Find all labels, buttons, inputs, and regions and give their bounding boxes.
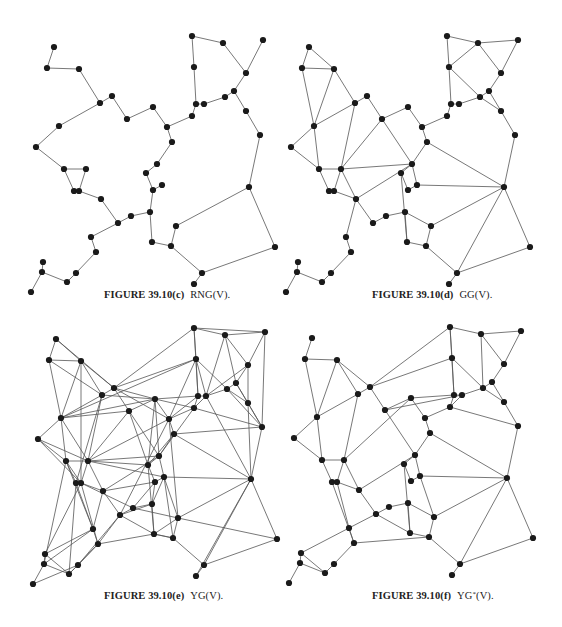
graph-edge [314,126,319,169]
graph-edge [101,199,118,223]
graph-vertex [42,551,48,557]
graph-edge [45,529,93,554]
graph-edge [49,360,81,361]
graph-edge [359,455,415,490]
graph-edge [354,537,429,543]
graph-vertex [248,476,254,482]
graph-edge [302,68,314,126]
graph-vertex [322,570,328,576]
graph-edge [489,91,501,111]
graph-vertex [351,540,357,546]
graph-edge [44,564,69,574]
graph-vertex [40,259,46,265]
graph-edge [341,164,412,169]
graph-vertex [367,384,373,390]
graph-edge [412,142,427,164]
graph-edge [504,135,515,187]
graph-edge [385,398,411,410]
graph-edge [356,199,373,223]
graph-edge [79,69,100,103]
graph-edge [79,191,101,199]
graph-edge [38,439,66,461]
graph-vertex [33,144,39,150]
graph-edge [452,358,483,388]
graph-edge [411,398,425,418]
graph-edge [98,534,154,544]
graph-edge [481,331,521,334]
graph-vertex [454,270,460,276]
graph-vertex [99,392,105,398]
graph-vertex [203,393,209,399]
graph-edge [427,142,504,187]
graph-vertex [220,40,226,46]
graph-vertex [294,269,300,275]
graph-vertex [170,535,176,541]
graph-vertex [291,435,297,441]
graph-vertex [446,281,452,287]
graph-vertex [424,139,430,145]
graph-edge [206,335,225,396]
graph-vertex [56,123,62,129]
graph-vertex [117,512,123,518]
graph-vertex [246,184,252,190]
graph-vertex [486,88,492,94]
graph-vertex [193,356,199,362]
graph-edge [504,331,521,364]
graph-vertex [189,113,195,119]
graph-edge [492,382,504,402]
figure-label: FIGURE 39.10(e) [104,590,184,601]
graph-vertex [498,108,504,114]
graph-edge [337,460,344,482]
graph-vertex [35,436,41,442]
graph-vertex [316,166,322,172]
graph-edge [79,169,86,191]
graph-edge [449,67,451,104]
graph-vertex [319,279,325,285]
graph-edge [114,328,194,388]
graph-vertex [199,270,205,276]
graph-edge [173,538,204,565]
graph-edge [120,515,154,534]
graph-vertex [299,65,305,71]
graph-vertex [501,361,507,367]
graph-edge [501,111,515,135]
graph-edge [76,483,93,529]
graph-vertex [78,480,84,486]
graph-vertex [331,561,337,567]
graph-vertex [233,380,239,386]
graph-vertex [191,325,197,331]
graph-vertex [331,188,337,194]
graph-vertex [331,66,337,72]
graph-edge [49,339,56,360]
graph-edge [367,96,382,119]
graph-edge [337,360,370,387]
graph-vertex [477,94,483,100]
graph-vertex [150,104,156,110]
graph-edge [78,515,120,565]
graph-vertex [39,269,45,275]
yg-graph [2,292,283,592]
graph-vertex [73,270,79,276]
graph-edge [31,272,42,292]
graph-edge [382,107,408,119]
graph-vertex [189,33,195,39]
graph-vertex [480,385,486,391]
graph-edge [426,246,457,273]
graph-vertex [373,511,379,517]
graph-vertex [489,379,495,385]
graph-edge [153,107,167,127]
graph-edge [286,272,297,292]
graph-vertex [444,113,450,119]
graph-edge [223,43,246,73]
graph-vertex [61,166,67,172]
graph-vertex [475,40,481,46]
graph-vertex [444,33,450,39]
graph-vertex [338,166,344,172]
graph-edge [76,395,102,483]
graph-edge [417,185,504,187]
graph-edge [61,399,155,418]
graph-edge [359,490,376,514]
graph-vertex [161,474,167,480]
graph-edge [47,47,54,68]
graph-edge [36,147,64,169]
